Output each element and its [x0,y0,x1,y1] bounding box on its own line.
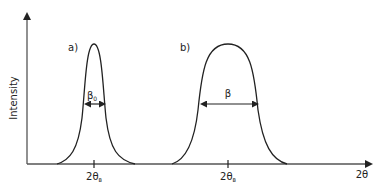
peak-a-position-label: 2θB [86,171,102,183]
x-axis-label: 2θ [356,169,368,180]
diffraction-peak-diagram: Intensity 2θ a) β0 2θB b) β 2θB [0,0,380,191]
peak-a-label: a) [68,42,78,53]
peak-b-position-label: 2θB [220,171,236,183]
y-axis-label: Intensity [8,76,19,120]
peak-b-label: b) [180,42,190,53]
peak-b-width-label: β [225,88,231,99]
peak-a-width-label: β0 [87,90,97,102]
